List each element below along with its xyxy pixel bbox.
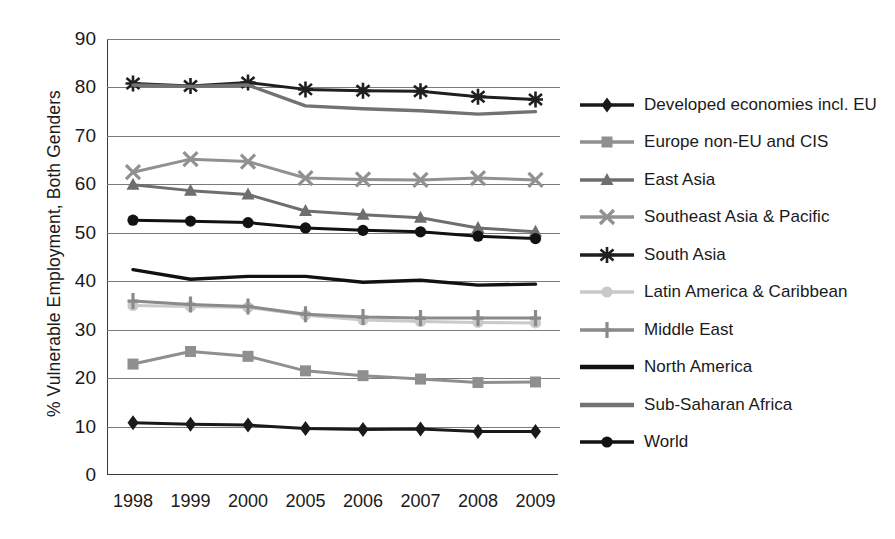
x-axis-tick-label: 2006	[343, 491, 383, 512]
data-point-marker-diamond	[415, 421, 426, 436]
series-3	[126, 152, 543, 187]
data-point-marker-circle	[185, 216, 196, 227]
data-point-marker-square	[185, 346, 196, 357]
x-axis-tick-label: 1998	[113, 491, 153, 512]
data-point-marker-plus	[243, 298, 254, 314]
data-point-marker-square	[358, 370, 369, 381]
data-point-marker-plus	[602, 322, 613, 338]
data-point-marker-circle	[127, 215, 138, 226]
data-point-marker-square	[602, 137, 613, 148]
data-point-marker-circle	[300, 222, 311, 233]
legend-item-4[interactable]: South Asia	[578, 236, 890, 274]
legend-label: North America	[644, 357, 752, 377]
data-point-marker-circle	[357, 225, 368, 236]
data-point-marker-asterisk	[471, 89, 486, 105]
legend-swatch-diamond-icon	[578, 94, 636, 116]
legend-label: Middle East	[644, 320, 733, 340]
legend-label: Southeast Asia & Pacific	[644, 207, 829, 227]
legend-swatch-x-icon	[578, 206, 636, 228]
y-axis-title: % Vulnerable Employment, Both Genders	[44, 34, 65, 474]
legend-swatch-line-icon	[578, 356, 636, 378]
y-axis-tick-label: 80	[75, 76, 96, 98]
data-point-marker-circle	[415, 226, 426, 237]
data-point-marker-diamond	[243, 418, 254, 433]
legend-item-7[interactable]: North America	[578, 349, 890, 387]
y-axis-tick-label: 30	[75, 319, 96, 341]
series-6	[128, 293, 542, 326]
data-point-marker-asterisk	[600, 247, 615, 263]
legend-label: World	[644, 432, 688, 452]
legend-item-8[interactable]: Sub-Saharan Africa	[578, 386, 890, 424]
data-point-marker-diamond	[128, 415, 139, 430]
data-point-marker-circle-light	[601, 287, 612, 298]
series-7	[133, 270, 536, 286]
legend-item-3[interactable]: Southeast Asia & Pacific	[578, 199, 890, 237]
plot-area: 0102030405060708090 19981999200020052006…	[107, 39, 558, 475]
data-point-marker-diamond	[530, 424, 541, 439]
legend-label: Latin America & Caribbean	[644, 282, 847, 302]
legend-item-9[interactable]: World	[578, 424, 890, 462]
x-axis-tick-label: 2007	[400, 491, 440, 512]
legend-swatch-asterisk-icon	[578, 244, 636, 266]
y-axis-tick-label: 50	[75, 222, 96, 244]
data-point-marker-asterisk	[356, 83, 371, 99]
legend-swatch-plus-icon	[578, 319, 636, 341]
data-point-marker-circle	[601, 437, 612, 448]
data-point-marker-square	[243, 351, 254, 362]
data-point-marker-diamond	[185, 417, 196, 432]
legend-swatch-line-icon	[578, 394, 636, 416]
legend-item-5[interactable]: Latin America & Caribbean	[578, 274, 890, 312]
x-axis-tick-label: 2000	[228, 491, 268, 512]
legend-label: Europe non-EU and CIS	[644, 132, 828, 152]
data-point-marker-diamond	[358, 422, 369, 437]
legend-item-1[interactable]: Europe non-EU and CIS	[578, 124, 890, 162]
legend-swatch-square-icon	[578, 131, 636, 153]
legend-swatch-circle-light-icon	[578, 281, 636, 303]
data-point-marker-square	[473, 377, 484, 388]
series-4	[126, 75, 544, 108]
y-axis-tick-label: 10	[75, 416, 96, 438]
x-axis-tick-label: 1999	[170, 491, 210, 512]
y-axis-tick-label: 0	[85, 464, 96, 486]
chart-container: % Vulnerable Employment, Both Genders 01…	[0, 0, 895, 539]
data-point-marker-square	[300, 365, 311, 376]
legend-swatch-circle-icon	[578, 431, 636, 453]
legend-label: South Asia	[644, 245, 726, 265]
y-axis-tick-label: 90	[75, 28, 96, 50]
data-point-marker-asterisk	[528, 92, 543, 108]
data-point-marker-square	[415, 374, 426, 385]
legend-item-2[interactable]: East Asia	[578, 161, 890, 199]
legend-item-0[interactable]: Developed economies incl. EU	[578, 86, 890, 124]
data-point-marker-asterisk	[413, 83, 428, 99]
x-axis-tick-label: 2005	[285, 491, 325, 512]
legend-label: East Asia	[644, 170, 715, 190]
y-axis-tick-label: 40	[75, 270, 96, 292]
data-point-marker-diamond	[602, 97, 613, 112]
y-axis-tick-label: 20	[75, 367, 96, 389]
data-point-marker-diamond	[300, 421, 311, 436]
legend-swatch-triangle-icon	[578, 169, 636, 191]
data-point-marker-square	[128, 359, 139, 370]
series-plot	[107, 39, 558, 475]
data-point-marker-plus	[300, 306, 311, 322]
y-axis-tick-label: 70	[75, 125, 96, 147]
legend-label: Developed economies incl. EU	[644, 95, 877, 115]
data-point-marker-circle	[242, 217, 253, 228]
legend-label: Sub-Saharan Africa	[644, 395, 792, 415]
series-1	[128, 346, 542, 388]
x-axis-tick-label: 2009	[515, 491, 555, 512]
legend-item-6[interactable]: Middle East	[578, 311, 890, 349]
y-axis-tick-label: 60	[75, 173, 96, 195]
series-0	[128, 415, 542, 439]
data-point-marker-asterisk	[298, 81, 313, 97]
legend: Developed economies incl. EUEurope non-E…	[578, 86, 890, 461]
data-point-marker-circle	[472, 231, 483, 242]
data-point-marker-diamond	[473, 424, 484, 439]
x-axis-tick-label: 2008	[458, 491, 498, 512]
data-point-marker-circle	[530, 233, 541, 244]
data-point-marker-square	[530, 376, 541, 387]
